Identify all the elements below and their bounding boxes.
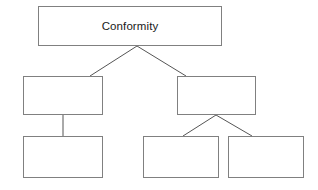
node-bottom-a[interactable] — [143, 136, 219, 178]
node-left-bottom[interactable] — [23, 136, 103, 178]
node-root-label: Conformity — [102, 20, 159, 33]
diagram-canvas: Conformity — [0, 0, 318, 190]
node-right-mid[interactable] — [177, 76, 256, 115]
node-left-mid[interactable] — [23, 76, 103, 115]
connector-root-to-left-mid — [90, 46, 137, 76]
node-bottom-b[interactable] — [228, 136, 304, 178]
connector-root-to-right-mid — [137, 46, 186, 76]
connector-right-mid-to-bottom-a — [183, 115, 216, 136]
connector-right-mid-to-bottom-b — [216, 115, 252, 136]
node-root[interactable]: Conformity — [38, 6, 222, 46]
